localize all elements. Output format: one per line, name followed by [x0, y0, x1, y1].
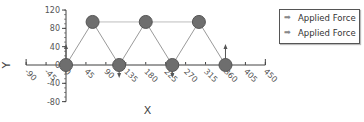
x-tick-label: 135: [122, 67, 139, 84]
arrow-right-icon: ➡: [284, 28, 294, 37]
legend-item-applied-force-2[interactable]: ➡ Applied Force: [280, 25, 359, 40]
x-tick-label: 315: [202, 67, 219, 84]
y-tick-label: -40: [47, 79, 60, 88]
legend-label: Applied Force: [298, 13, 356, 23]
force-arrow-down-icon: [117, 73, 121, 78]
truss-member: [172, 22, 199, 65]
y-tick-label: -80: [47, 98, 60, 107]
x-tick-label: -90: [23, 67, 39, 83]
x-tick-label: 180: [142, 67, 159, 84]
truss-node: [139, 15, 152, 28]
truss-node: [113, 59, 126, 72]
y-tick-label: 120: [45, 6, 60, 15]
truss-member: [199, 22, 226, 65]
truss-node: [86, 15, 99, 28]
legend-item-applied-force-1[interactable]: ➡ Applied Force: [280, 10, 359, 25]
x-tick-label: 405: [242, 67, 259, 84]
truss-node: [60, 59, 73, 72]
y-tick-label: 40: [50, 43, 60, 52]
y-axis-title: Y: [0, 61, 13, 69]
legend: ➡ Applied Force ➡ Applied Force: [279, 9, 360, 44]
truss-member: [93, 22, 120, 65]
legend-label: Applied Force: [298, 28, 356, 38]
x-axis-title: X: [144, 104, 152, 117]
x-tick-label: 450: [262, 67, 279, 84]
truss-node: [166, 59, 179, 72]
y-tick-label: 80: [50, 24, 60, 33]
truss-member: [66, 22, 93, 65]
x-tick-label: 270: [182, 67, 199, 84]
truss-node: [192, 15, 205, 28]
truss-member: [119, 22, 146, 65]
truss-node: [219, 59, 232, 72]
arrow-right-icon: ➡: [284, 13, 294, 22]
x-tick-label: 45: [83, 67, 97, 81]
force-arrow-up-icon: [223, 44, 227, 49]
truss-member: [146, 22, 173, 65]
